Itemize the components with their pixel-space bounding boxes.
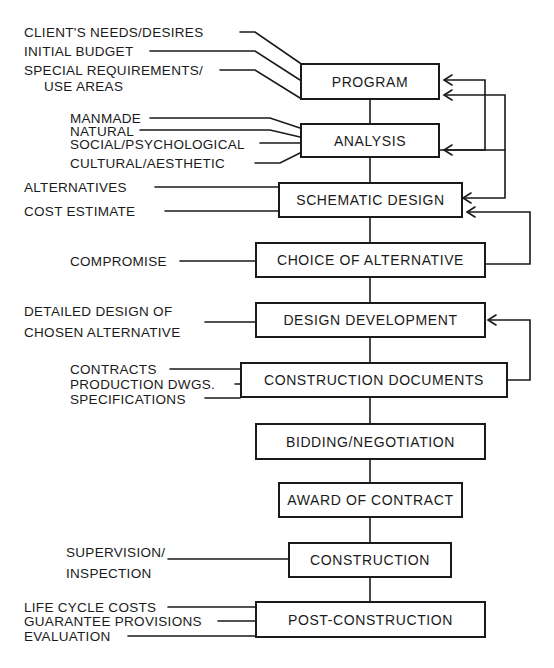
input-label: INSPECTION [66, 567, 152, 581]
stage-label: BIDDING/NEGOTIATION [286, 434, 455, 450]
input-label: GUARANTEE PROVISIONS [24, 615, 202, 629]
stage-analysis: ANALYSIS [300, 123, 440, 158]
stage-label: CONSTRUCTION [310, 552, 430, 568]
stage-label: CONSTRUCTION DOCUMENTS [264, 372, 484, 388]
design-process-diagram: PROGRAM ANALYSIS SCHEMATIC DESIGN CHOICE… [0, 0, 554, 668]
stage-award-of-contract: AWARD OF CONTRACT [278, 482, 463, 518]
stage-bidding-negotiation: BIDDING/NEGOTIATION [255, 423, 486, 460]
stage-post-construction: POST-CONSTRUCTION [255, 601, 486, 638]
stage-program: PROGRAM [300, 63, 440, 100]
input-label: DETAILED DESIGN OF [24, 305, 172, 319]
input-label: SPECIAL REQUIREMENTS/ [24, 64, 203, 78]
stage-label: DESIGN DEVELOPMENT [283, 312, 457, 328]
input-label: ALTERNATIVES [24, 181, 127, 195]
stage-label: PROGRAM [332, 74, 409, 90]
stage-label: AWARD OF CONTRACT [287, 492, 453, 508]
input-label: PRODUCTION DWGS. [70, 378, 215, 392]
input-label: SUPERVISION/ [66, 546, 165, 560]
stage-label: POST-CONSTRUCTION [288, 612, 453, 628]
stage-schematic-design: SCHEMATIC DESIGN [278, 182, 463, 218]
input-label: SPECIFICATIONS [70, 393, 186, 407]
input-label: INITIAL BUDGET [24, 45, 133, 59]
input-label: CLIENT'S NEEDS/DESIRES [24, 26, 203, 40]
input-label: USE AREAS [44, 80, 123, 94]
stage-construction-documents: CONSTRUCTION DOCUMENTS [240, 362, 508, 398]
input-label: SOCIAL/PSYCHOLOGICAL [70, 138, 245, 152]
stage-construction: CONSTRUCTION [288, 542, 452, 578]
input-label: CULTURAL/AESTHETIC [70, 157, 225, 171]
stage-label: ANALYSIS [334, 133, 406, 149]
stage-label: SCHEMATIC DESIGN [296, 192, 445, 208]
stage-choice-of-alternative: CHOICE OF ALTERNATIVE [255, 242, 486, 278]
input-label: COST ESTIMATE [24, 205, 135, 219]
stage-design-development: DESIGN DEVELOPMENT [255, 302, 486, 338]
input-label: EVALUATION [24, 630, 111, 644]
input-label: CHOSEN ALTERNATIVE [24, 326, 180, 340]
input-label: COMPROMISE [70, 255, 167, 269]
stage-label: CHOICE OF ALTERNATIVE [277, 252, 464, 268]
input-label: LIFE CYCLE COSTS [24, 601, 156, 615]
input-label: CONTRACTS [70, 363, 157, 377]
